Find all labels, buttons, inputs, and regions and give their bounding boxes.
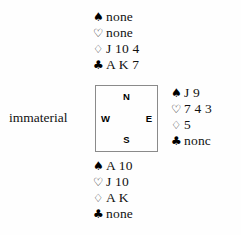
hand-east-diamonds-row: ♢ 5 [171,117,212,133]
hand-east-clubs: nonc [184,133,211,149]
hand-west-label: immaterial [9,110,67,126]
hand-east-hearts-row: ♡ 7 4 3 [171,101,212,117]
diamond-icon: ♢ [171,117,184,133]
hand-south-spades: A 10 [106,158,133,174]
hand-south-diamonds-row: ♢ A K [93,190,133,206]
hand-east-spades-row: ♠ J 9 [171,85,212,101]
club-icon: ♣ [171,133,184,149]
hand-north-spades-row: ♠ none [93,9,139,25]
hand-south-clubs: none [106,206,133,222]
hand-south-hearts-row: ♡ J 10 [93,174,133,190]
hand-east: ♠ J 9 ♡ 7 4 3 ♢ 5 ♣ nonc [171,85,212,149]
diamond-icon: ♢ [93,190,106,206]
hand-north-hearts-row: ♡ none [93,25,139,41]
hand-north-clubs: A K 7 [106,57,139,73]
compass-north-label: N [96,92,157,102]
diamond-icon: ♢ [93,41,106,57]
spade-icon: ♠ [93,9,106,25]
club-icon: ♣ [93,206,106,222]
hand-north-clubs-row: ♣ A K 7 [93,57,139,73]
hand-south-spades-row: ♠ A 10 [93,158,133,174]
compass-south-label: S [96,135,157,145]
club-icon: ♣ [93,57,106,73]
spade-icon: ♠ [171,85,184,101]
hand-east-clubs-row: ♣ nonc [171,133,212,149]
bridge-hand-diagram: ♠ none ♡ none ♢ J 10 4 ♣ A K 7 immateria… [0,0,241,235]
compass-west-label: W [101,114,110,124]
hand-east-hearts: 7 4 3 [184,101,212,117]
hand-north-spades: none [106,9,133,25]
heart-icon: ♡ [93,174,106,190]
hand-north-diamonds-row: ♢ J 10 4 [93,41,139,57]
hand-north: ♠ none ♡ none ♢ J 10 4 ♣ A K 7 [93,9,139,73]
hand-east-diamonds: 5 [184,117,191,133]
hand-north-diamonds: J 10 4 [106,41,139,57]
compass-east-label: E [146,114,152,124]
spade-icon: ♠ [93,158,106,174]
hand-north-hearts: none [106,25,133,41]
heart-icon: ♡ [93,25,106,41]
hand-south: ♠ A 10 ♡ J 10 ♢ A K ♣ none [93,158,133,222]
hand-south-diamonds: A K [106,190,129,206]
compass-box: N W E S [95,85,158,152]
hand-south-clubs-row: ♣ none [93,206,133,222]
heart-icon: ♡ [171,101,184,117]
hand-east-spades: J 9 [184,85,200,101]
hand-south-hearts: J 10 [106,174,129,190]
